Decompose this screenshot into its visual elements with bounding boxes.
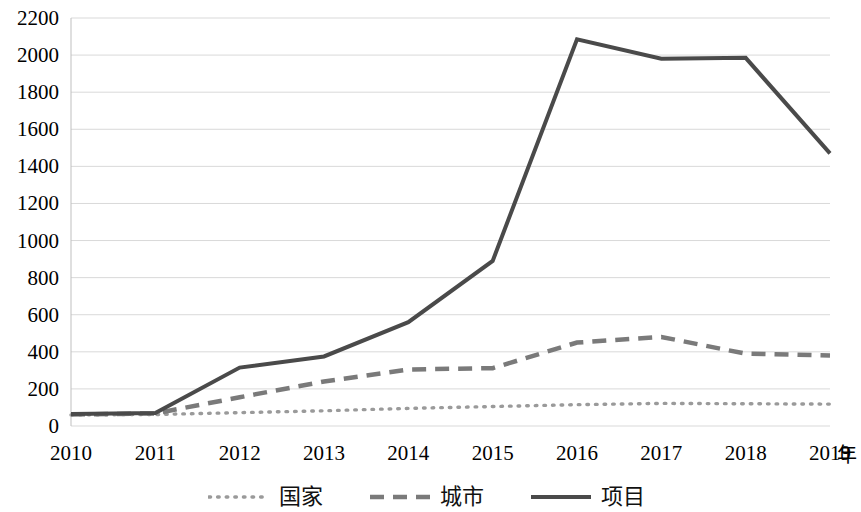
legend-item-2[interactable]: 城市 <box>369 486 484 508</box>
series-line-1 <box>71 403 830 415</box>
legend-swatch-dashed <box>369 490 431 504</box>
legend-swatch-dotted <box>208 490 270 504</box>
series-lines-group <box>71 39 830 415</box>
y-tick-label: 1400 <box>0 156 59 177</box>
y-tick-label: 1000 <box>0 231 59 252</box>
y-tick-label: 1200 <box>0 193 59 214</box>
y-tick-label: 800 <box>0 268 59 289</box>
x-tick-label: 2018 <box>706 443 786 464</box>
y-tick-label: 2200 <box>0 8 59 29</box>
y-tick-label: 0 <box>0 416 59 437</box>
gridlines-group <box>71 18 830 426</box>
legend-label: 国家 <box>279 486 323 508</box>
x-tick-label: 2011 <box>115 443 195 464</box>
x-tick-label: 2010 <box>31 443 111 464</box>
x-axis-unit-label: 年 <box>837 445 857 465</box>
legend-label: 城市 <box>440 486 484 508</box>
legend-item-3[interactable]: 项目 <box>530 486 645 508</box>
y-tick-label: 200 <box>0 379 59 400</box>
legend-item-1[interactable]: 国家 <box>208 486 323 508</box>
y-tick-label: 400 <box>0 342 59 363</box>
x-tick-label: 2017 <box>621 443 701 464</box>
legend-label: 项目 <box>601 486 645 508</box>
x-tick-label: 2012 <box>200 443 280 464</box>
series-line-3 <box>71 39 830 414</box>
y-tick-label: 1600 <box>0 119 59 140</box>
x-tick-label: 2014 <box>368 443 448 464</box>
x-tick-label: 2013 <box>284 443 364 464</box>
y-tick-label: 1800 <box>0 82 59 103</box>
y-tick-label: 2000 <box>0 45 59 66</box>
x-tick-label: 2015 <box>453 443 533 464</box>
chart-legend: 国家城市项目 <box>0 482 853 512</box>
y-tick-label: 600 <box>0 305 59 326</box>
x-tick-label: 2016 <box>537 443 617 464</box>
legend-swatch-solid <box>530 490 592 504</box>
